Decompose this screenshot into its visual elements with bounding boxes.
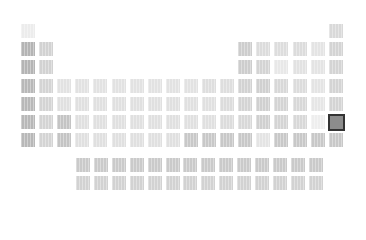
element-cell[interactable]: [39, 133, 53, 147]
element-cell[interactable]: [75, 97, 89, 111]
element-cell[interactable]: [220, 97, 234, 111]
element-cell[interactable]: [166, 97, 180, 111]
lanthanide-cell[interactable]: [166, 158, 180, 172]
element-cell[interactable]: [311, 79, 325, 93]
element-cell[interactable]: [130, 79, 144, 93]
element-cell[interactable]: [329, 60, 343, 74]
lanthanide-cell[interactable]: [291, 158, 305, 172]
lanthanide-cell[interactable]: [201, 158, 215, 172]
element-cell[interactable]: [238, 79, 252, 93]
actinide-cell[interactable]: [76, 176, 90, 190]
element-cell[interactable]: [256, 79, 270, 93]
element-cell[interactable]: [148, 79, 162, 93]
element-cell[interactable]: [256, 133, 270, 147]
element-cell[interactable]: [93, 133, 107, 147]
lanthanide-cell[interactable]: [237, 158, 251, 172]
element-cell[interactable]: [274, 133, 288, 147]
element-cell[interactable]: [39, 97, 53, 111]
element-cell[interactable]: [130, 133, 144, 147]
element-cell[interactable]: [293, 60, 307, 74]
element-cell[interactable]: [21, 79, 35, 93]
element-cell[interactable]: [130, 97, 144, 111]
element-cell[interactable]: [238, 97, 252, 111]
actinide-cell[interactable]: [273, 176, 287, 190]
element-cell[interactable]: [166, 133, 180, 147]
actinide-cell[interactable]: [255, 176, 269, 190]
element-cell[interactable]: [130, 115, 144, 129]
element-cell[interactable]: [112, 115, 126, 129]
element-cell[interactable]: [274, 42, 288, 56]
actinide-cell[interactable]: [183, 176, 197, 190]
actinide-cell[interactable]: [94, 176, 108, 190]
element-cell[interactable]: [57, 79, 71, 93]
element-cell[interactable]: [220, 133, 234, 147]
selected-element-cell[interactable]: [328, 114, 345, 131]
element-cell[interactable]: [39, 60, 53, 74]
actinide-cell[interactable]: [201, 176, 215, 190]
element-cell[interactable]: [238, 60, 252, 74]
element-cell[interactable]: [238, 42, 252, 56]
lanthanide-cell[interactable]: [112, 158, 126, 172]
element-cell[interactable]: [184, 97, 198, 111]
element-cell[interactable]: [93, 115, 107, 129]
element-cell[interactable]: [256, 60, 270, 74]
element-cell[interactable]: [274, 97, 288, 111]
element-cell[interactable]: [166, 115, 180, 129]
element-cell[interactable]: [21, 115, 35, 129]
element-cell[interactable]: [329, 42, 343, 56]
actinide-cell[interactable]: [130, 176, 144, 190]
element-cell[interactable]: [256, 42, 270, 56]
actinide-cell[interactable]: [112, 176, 126, 190]
element-cell[interactable]: [220, 79, 234, 93]
element-cell[interactable]: [148, 97, 162, 111]
element-cell[interactable]: [21, 133, 35, 147]
element-cell[interactable]: [274, 60, 288, 74]
element-cell[interactable]: [93, 79, 107, 93]
element-cell[interactable]: [39, 79, 53, 93]
element-cell[interactable]: [311, 60, 325, 74]
element-cell[interactable]: [39, 115, 53, 129]
element-cell[interactable]: [57, 133, 71, 147]
element-cell[interactable]: [238, 115, 252, 129]
lanthanide-cell[interactable]: [309, 158, 323, 172]
element-cell[interactable]: [274, 115, 288, 129]
lanthanide-cell[interactable]: [94, 158, 108, 172]
element-cell[interactable]: [311, 97, 325, 111]
lanthanide-cell[interactable]: [148, 158, 162, 172]
element-cell[interactable]: [184, 79, 198, 93]
actinide-cell[interactable]: [309, 176, 323, 190]
element-cell[interactable]: [112, 79, 126, 93]
lanthanide-cell[interactable]: [130, 158, 144, 172]
element-cell[interactable]: [57, 97, 71, 111]
element-cell[interactable]: [202, 79, 216, 93]
element-cell[interactable]: [166, 79, 180, 93]
element-cell[interactable]: [256, 97, 270, 111]
element-cell[interactable]: [21, 42, 35, 56]
element-cell[interactable]: [220, 115, 234, 129]
lanthanide-cell[interactable]: [76, 158, 90, 172]
element-cell[interactable]: [329, 79, 343, 93]
element-cell[interactable]: [329, 97, 343, 111]
element-cell[interactable]: [202, 115, 216, 129]
actinide-cell[interactable]: [166, 176, 180, 190]
element-cell[interactable]: [202, 97, 216, 111]
lanthanide-cell[interactable]: [273, 158, 287, 172]
element-cell[interactable]: [238, 133, 252, 147]
element-cell[interactable]: [75, 133, 89, 147]
actinide-cell[interactable]: [237, 176, 251, 190]
element-cell[interactable]: [311, 133, 325, 147]
lanthanide-cell[interactable]: [183, 158, 197, 172]
element-cell[interactable]: [293, 133, 307, 147]
element-cell[interactable]: [184, 115, 198, 129]
lanthanide-cell[interactable]: [255, 158, 269, 172]
actinide-cell[interactable]: [291, 176, 305, 190]
element-cell[interactable]: [293, 42, 307, 56]
element-cell[interactable]: [21, 97, 35, 111]
element-cell[interactable]: [57, 115, 71, 129]
element-cell[interactable]: [256, 115, 270, 129]
element-cell[interactable]: [202, 133, 216, 147]
element-cell[interactable]: [75, 79, 89, 93]
element-cell[interactable]: [39, 42, 53, 56]
element-cell[interactable]: [293, 115, 307, 129]
element-cell[interactable]: [293, 97, 307, 111]
